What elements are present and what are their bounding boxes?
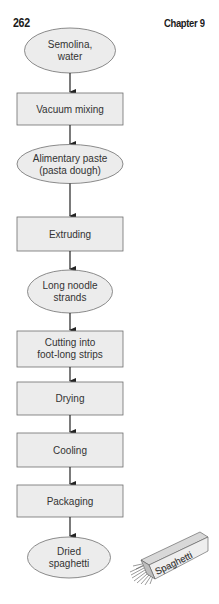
node-label: Long noodle — [42, 280, 97, 291]
node-label: spaghetti — [49, 558, 90, 569]
node-packaging: Packaging — [17, 485, 123, 517]
node-cooling: Cooling — [17, 433, 123, 467]
node-label: Alimentary paste — [33, 153, 108, 164]
node-label: Extruding — [49, 229, 91, 240]
node-label: Drying — [56, 393, 85, 404]
node-alimentary-paste: Alimentary paste (pasta dough) — [17, 145, 123, 184]
node-label: Dried — [57, 546, 81, 557]
node-label: Packaging — [47, 496, 94, 507]
node-label: water — [57, 51, 83, 62]
node-vacuum-mixing: Vacuum mixing — [17, 93, 123, 125]
node-label: Vacuum mixing — [36, 104, 104, 115]
node-cutting-strips: Cutting into foot-long strips — [17, 331, 123, 367]
node-extruding: Extruding — [17, 217, 123, 251]
node-label: (pasta dough) — [39, 165, 101, 176]
node-label: Cooling — [53, 445, 87, 456]
node-dried-spaghetti: Dried spaghetti — [28, 537, 111, 578]
spaghetti-package-illustration: Spaghetti — [130, 532, 208, 585]
node-label: strands — [54, 292, 87, 303]
node-drying: Drying — [17, 382, 123, 415]
node-label: foot-long strips — [37, 349, 103, 360]
node-long-noodle-strands: Long noodle strands — [28, 270, 113, 313]
spaghetti-process-flowchart: Semolina, water Vacuum mixing Alimentary… — [0, 0, 219, 604]
node-label: Semolina, — [48, 39, 92, 50]
node-semolina-water: Semolina, water — [25, 28, 116, 73]
node-label: Cutting into — [45, 337, 96, 348]
